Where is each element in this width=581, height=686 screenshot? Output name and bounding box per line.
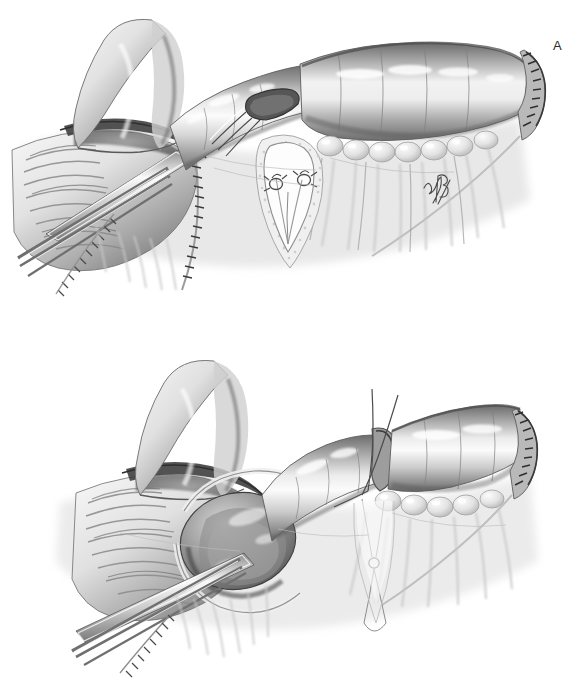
panel-label-a: A <box>553 39 562 52</box>
staple-line-left-b <box>120 615 174 677</box>
bowel-segment-distal-a <box>300 43 528 141</box>
panel-b-artwork <box>0 343 581 686</box>
panel-a: A <box>0 0 581 343</box>
panel-b: B <box>0 343 581 686</box>
bowel-segment-distal-b <box>388 405 520 491</box>
figure-root: A <box>0 0 581 686</box>
panel-a-artwork <box>0 0 581 343</box>
